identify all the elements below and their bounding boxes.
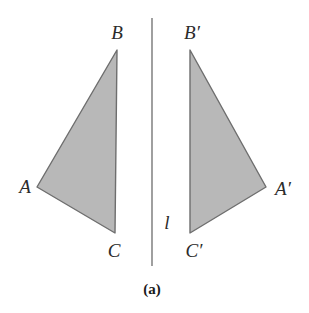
mirror-line-label: l — [164, 213, 169, 232]
vertex-label-c-prime: C′ — [186, 241, 203, 260]
vertex-label-b-prime: B′ — [184, 23, 200, 42]
reflection-figure: B A C B′ A′ C′ l (a) — [0, 0, 309, 313]
vertex-label-b: B — [111, 23, 123, 42]
figure-canvas — [0, 0, 309, 313]
vertex-label-c: C — [108, 241, 121, 260]
vertex-label-a: A — [19, 177, 31, 196]
vertex-label-a-prime: A′ — [275, 179, 291, 198]
figure-background — [0, 0, 309, 313]
figure-caption: (a) — [143, 282, 161, 297]
